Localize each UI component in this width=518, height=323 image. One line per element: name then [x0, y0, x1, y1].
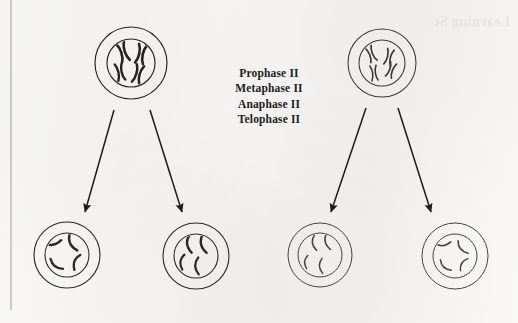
- nuclear-envelope: [433, 234, 477, 278]
- chromosome-duplicated: [384, 48, 394, 65]
- chromosome-set: [365, 45, 397, 81]
- nuclear-envelope: [45, 233, 89, 277]
- chromatid: [180, 254, 185, 269]
- chromatid: [323, 234, 331, 250]
- cell-membrane: [348, 29, 416, 97]
- arrow-parent-right-to-daughter-4: [398, 108, 431, 212]
- chromatid: [384, 48, 390, 64]
- chromosome-duplicated: [385, 62, 396, 78]
- chromosome-duplicated: [370, 65, 378, 81]
- chromatid: [435, 241, 451, 247]
- figure-canvas: Learning Sc Prophase II Metaphase II Ana…: [0, 0, 518, 323]
- phase-label-prophase-ii: Prophase II: [205, 66, 333, 81]
- chromosome-single: [72, 254, 80, 270]
- chromosome-single: [194, 257, 199, 274]
- arrow-parent-right-to-daughter-3: [331, 108, 366, 212]
- chromatid: [115, 64, 120, 81]
- chromosome-single: [311, 235, 317, 250]
- parent-cell-left: [95, 27, 167, 99]
- chromosome-single: [455, 241, 468, 255]
- chromosome-set: [304, 234, 331, 274]
- cell-membrane: [163, 223, 229, 289]
- chromatid: [455, 241, 468, 255]
- daughter-cell-1: [34, 222, 100, 288]
- cell-membrane: [422, 223, 488, 289]
- chromatid: [458, 257, 467, 271]
- chromosome-duplicated: [365, 45, 377, 62]
- parent-cell-right: [348, 29, 416, 97]
- chromatid: [370, 66, 374, 81]
- phase-label-anaphase-ii: Anaphase II: [205, 97, 333, 112]
- phase-label-metaphase-ii: Metaphase II: [205, 81, 333, 96]
- chromatid: [374, 65, 378, 80]
- chromosome-single: [323, 234, 331, 250]
- chromosome-single: [438, 260, 452, 272]
- chromosome-single: [186, 235, 193, 253]
- chromosome-duplicated: [116, 42, 129, 63]
- chromatid: [194, 257, 199, 274]
- arrow-parent-left-to-daughter-2: [150, 110, 182, 212]
- chromatid: [120, 63, 125, 80]
- chromosome-single: [66, 234, 78, 252]
- chromatid: [72, 254, 80, 270]
- phase-label-telophase-ii: Telophase II: [205, 112, 333, 127]
- chromatid: [319, 258, 324, 273]
- chromosome-duplicated: [115, 63, 126, 81]
- phase-label-list: Prophase II Metaphase II Anaphase II Tel…: [205, 66, 333, 128]
- meiosis-ii-diagram: [0, 0, 518, 323]
- chromosome-single: [180, 254, 185, 269]
- chromatid: [304, 255, 307, 268]
- daughter-cell-4: [422, 223, 488, 289]
- chromatid: [135, 44, 141, 63]
- chromatid: [141, 45, 147, 64]
- nuclear-envelope: [107, 39, 155, 87]
- chromosome-single: [319, 258, 324, 273]
- chromatid: [311, 235, 317, 250]
- arrow-parent-left-to-daughter-1: [85, 110, 114, 212]
- daughter-cell-2: [163, 223, 229, 289]
- daughter-cell-3: [288, 223, 352, 287]
- chromosome-single: [458, 257, 467, 271]
- chromosome-set: [435, 241, 469, 272]
- chromosome-set: [115, 42, 147, 84]
- cell-membrane: [34, 222, 100, 288]
- chromatid: [438, 260, 452, 272]
- nuclear-envelope: [359, 40, 405, 86]
- chromosome-set: [180, 234, 208, 274]
- chromosome-duplicated: [132, 64, 144, 83]
- chromosome-set: [44, 234, 80, 271]
- chromatid: [186, 235, 193, 253]
- chromosome-single: [435, 241, 451, 247]
- chromatid: [66, 234, 78, 252]
- cell-membrane: [95, 27, 167, 99]
- chromosome-single: [304, 255, 307, 268]
- chromosome-duplicated: [135, 44, 147, 64]
